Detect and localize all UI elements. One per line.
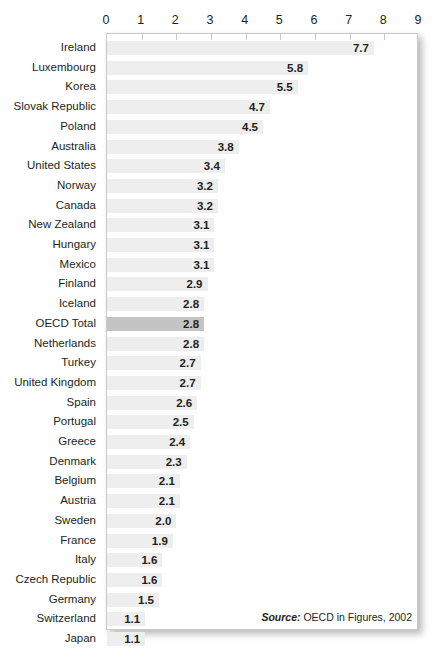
- x-axis-tick-label-3: 3: [207, 13, 214, 27]
- bar-value-label: 2.8: [183, 317, 199, 331]
- bar-spain: 2.6: [107, 396, 197, 410]
- x-axis-tick-label-8: 8: [380, 13, 387, 27]
- bar-value-label: 2.8: [183, 337, 199, 351]
- x-axis-tick-label-1: 1: [137, 13, 144, 27]
- chart-row: Japan1.1: [0, 629, 439, 649]
- category-label-austria: Austria: [0, 491, 96, 511]
- category-label-oecd-total: OECD Total: [0, 314, 96, 334]
- chart-row: Poland4.5: [0, 117, 439, 137]
- bar-hungary: 3.1: [107, 238, 214, 252]
- category-label-belgium: Belgium: [0, 471, 96, 491]
- bar-value-label: 3.4: [204, 159, 220, 173]
- chart-row: Norway3.2: [0, 176, 439, 196]
- chart-row: Finland2.9: [0, 274, 439, 294]
- chart-row: Iceland2.8: [0, 294, 439, 314]
- category-label-canada: Canada: [0, 196, 96, 216]
- bar-value-label: 1.1: [124, 632, 140, 646]
- chart-row: Ireland7.7: [0, 38, 439, 58]
- bar-australia: 3.8: [107, 140, 239, 154]
- chart-row: New Zealand3.1: [0, 215, 439, 235]
- chart-row: Netherlands2.8: [0, 334, 439, 354]
- bar-value-label: 2.7: [180, 356, 196, 370]
- bar-czech-republic: 1.6: [107, 573, 162, 587]
- chart-row: Korea5.5: [0, 77, 439, 97]
- bar-united-states: 3.4: [107, 159, 225, 173]
- x-axis-tick-label-6: 6: [311, 13, 318, 27]
- chart-row: Canada3.2: [0, 196, 439, 216]
- bar-value-label: 3.1: [193, 218, 209, 232]
- category-label-iceland: Iceland: [0, 294, 96, 314]
- source-note: Source: OECD in Figures, 2002: [261, 611, 412, 623]
- bar-denmark: 2.3: [107, 455, 187, 469]
- chart-row: Germany1.5: [0, 590, 439, 610]
- category-label-finland: Finland: [0, 274, 96, 294]
- bar-value-label: 1.1: [124, 612, 140, 626]
- category-label-slovak-republic: Slovak Republic: [0, 97, 96, 117]
- chart-row: Spain2.6: [0, 393, 439, 413]
- bar-italy: 1.6: [107, 553, 162, 567]
- bar-value-label: 3.2: [197, 179, 213, 193]
- category-label-turkey: Turkey: [0, 353, 96, 373]
- bar-france: 1.9: [107, 534, 173, 548]
- category-label-portugal: Portugal: [0, 412, 96, 432]
- chart-row: France1.9: [0, 531, 439, 551]
- bar-value-label: 2.7: [180, 376, 196, 390]
- chart-row: Greece2.4: [0, 432, 439, 452]
- x-axis-tick-label-2: 2: [172, 13, 179, 27]
- bar-new-zealand: 3.1: [107, 218, 214, 232]
- bar-value-label: 4.7: [249, 100, 265, 114]
- x-axis-tick-label-9: 9: [415, 13, 422, 27]
- bar-value-label: 7.7: [353, 41, 369, 55]
- bar-value-label: 4.5: [242, 120, 258, 134]
- bar-oecd-total: 2.8: [107, 317, 204, 331]
- chart-row: United States3.4: [0, 156, 439, 176]
- bar-value-label: 3.2: [197, 199, 213, 213]
- x-axis-tick-label-7: 7: [345, 13, 352, 27]
- chart-rows: Ireland7.7Luxembourg5.8Korea5.5Slovak Re…: [0, 38, 439, 630]
- bar-germany: 1.5: [107, 593, 159, 607]
- bar-value-label: 3.8: [218, 140, 234, 154]
- category-label-italy: Italy: [0, 550, 96, 570]
- bar-greece: 2.4: [107, 435, 190, 449]
- bar-ireland: 7.7: [107, 41, 374, 55]
- category-label-switzerland: Switzerland: [0, 609, 96, 629]
- category-label-sweden: Sweden: [0, 511, 96, 531]
- chart-row: Italy1.6: [0, 550, 439, 570]
- bar-finland: 2.9: [107, 277, 208, 291]
- bar-value-label: 2.4: [169, 435, 185, 449]
- chart-row: Luxembourg5.8: [0, 58, 439, 78]
- bar-value-label: 3.1: [193, 258, 209, 272]
- bar-sweden: 2.0: [107, 514, 176, 528]
- bar-value-label: 2.8: [183, 297, 199, 311]
- chart-row: Australia3.8: [0, 137, 439, 157]
- chart-row: Turkey2.7: [0, 353, 439, 373]
- category-label-france: France: [0, 531, 96, 551]
- chart-row: Mexico3.1: [0, 255, 439, 275]
- bar-value-label: 2.6: [176, 396, 192, 410]
- x-axis-tick-label-0: 0: [103, 13, 110, 27]
- bar-value-label: 5.8: [287, 61, 303, 75]
- source-prefix: Source:: [261, 611, 300, 623]
- bar-value-label: 1.5: [138, 593, 154, 607]
- category-label-germany: Germany: [0, 590, 96, 610]
- category-label-japan: Japan: [0, 629, 96, 649]
- bar-value-label: 1.9: [152, 534, 168, 548]
- bar-norway: 3.2: [107, 179, 218, 193]
- bar-value-label: 2.1: [159, 474, 175, 488]
- category-label-denmark: Denmark: [0, 452, 96, 472]
- bar-slovak-republic: 4.7: [107, 100, 270, 114]
- bar-value-label: 2.1: [159, 494, 175, 508]
- bar-mexico: 3.1: [107, 258, 214, 272]
- chart-row: Czech Republic1.6: [0, 570, 439, 590]
- category-label-luxembourg: Luxembourg: [0, 58, 96, 78]
- chart-row: United Kingdom2.7: [0, 373, 439, 393]
- bar-value-label: 5.5: [277, 80, 293, 94]
- chart-row: Slovak Republic4.7: [0, 97, 439, 117]
- bar-iceland: 2.8: [107, 297, 204, 311]
- chart-row: OECD Total2.8: [0, 314, 439, 334]
- category-label-new-zealand: New Zealand: [0, 215, 96, 235]
- bar-value-label: 1.6: [141, 553, 157, 567]
- chart-row: Sweden2.0: [0, 511, 439, 531]
- bar-value-label: 1.6: [141, 573, 157, 587]
